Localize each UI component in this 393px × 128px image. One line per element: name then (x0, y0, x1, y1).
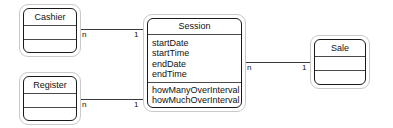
operation-how-much-over-interval: howMuchOverInterval (152, 95, 241, 106)
class-box-sale[interactable]: Sale (310, 35, 370, 89)
class-name-sale: Sale (315, 40, 365, 57)
class-attributes-compartment-cashier (24, 26, 76, 40)
class-box-session[interactable]: Session startDate startTime endDate endT… (143, 14, 246, 112)
class-box-sale-inner: Sale (314, 39, 366, 85)
multiplicity-register-session-target: 1 (134, 101, 138, 109)
class-box-register[interactable]: Register (19, 72, 81, 125)
class-name-register: Register (24, 77, 76, 94)
uml-class-diagram-canvas: n 1 n 1 n 1 Cashier Register Session sta… (0, 0, 393, 128)
class-box-cashier-inner: Cashier (23, 8, 77, 53)
class-attributes-compartment-sale (315, 57, 365, 71)
class-attributes-compartment-register (24, 94, 76, 108)
attribute-start-time: startTime (152, 48, 241, 59)
multiplicity-cashier-session-target: 1 (134, 31, 138, 39)
attribute-end-date: endDate (152, 59, 241, 70)
class-operations-compartment-sale (315, 71, 365, 84)
class-operations-compartment-register (24, 108, 76, 121)
class-operations-compartment-session: howManyOverInterval howMuchOverInterval (148, 83, 241, 107)
multiplicity-session-sale-source: n (247, 64, 251, 72)
operation-how-many-over-interval: howManyOverInterval (152, 85, 241, 96)
multiplicity-session-sale-target: 1 (302, 64, 306, 72)
attribute-start-date: startDate (152, 38, 241, 49)
class-operations-compartment-cashier (24, 40, 76, 53)
class-name-session: Session (148, 19, 241, 35)
class-attributes-compartment-session: startDate startTime endDate endTime (148, 35, 241, 83)
class-box-cashier[interactable]: Cashier (19, 4, 81, 57)
class-box-session-inner: Session startDate startTime endDate endT… (147, 18, 242, 108)
attribute-end-time: endTime (152, 69, 241, 80)
class-box-register-inner: Register (23, 76, 77, 121)
multiplicity-register-session-source: n (82, 101, 86, 109)
class-name-cashier: Cashier (24, 9, 76, 26)
multiplicity-cashier-session-source: n (82, 31, 86, 39)
